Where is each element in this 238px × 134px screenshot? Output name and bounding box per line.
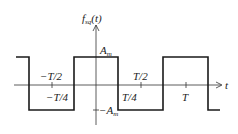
- amp-pos-label: Am: [99, 44, 112, 58]
- square-wave-diagram: fsq(t) t Am −Am −T/2 −T/4 T/4 T/2 T: [0, 0, 238, 134]
- tick-label-pos-half: T/2: [133, 70, 148, 82]
- y-axis-label: fsq(t): [82, 12, 102, 26]
- tick-label-neg-half: −T/2: [40, 70, 63, 82]
- amp-neg-label: −Am: [99, 104, 118, 118]
- tick-label-period: T: [182, 91, 189, 103]
- x-axis-label: t: [225, 79, 229, 91]
- tick-label-neg-quarter: −T/4: [46, 91, 69, 103]
- tick-label-pos-quarter: T/4: [122, 91, 137, 103]
